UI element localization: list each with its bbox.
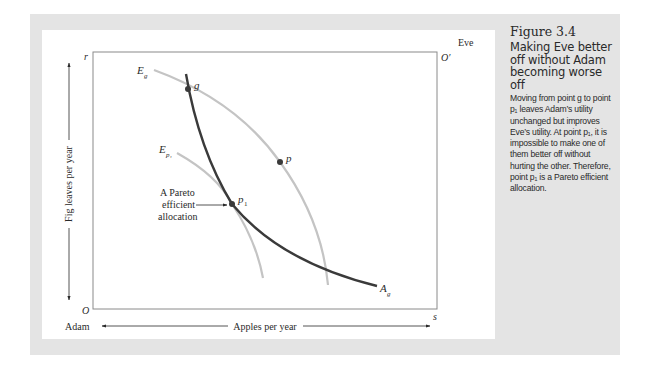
- figure-number: Figure 3.4: [510, 25, 615, 39]
- corner-label-origin-adam: O: [82, 305, 89, 316]
- svg-text:efficient: efficient: [162, 199, 195, 210]
- svg-text:1: 1: [244, 200, 248, 208]
- edgeworth-box: [93, 52, 437, 309]
- y-axis-label: Fig leaves per year: [63, 145, 74, 221]
- svg-text:E: E: [136, 64, 144, 76]
- svg-text:A: A: [379, 282, 387, 294]
- point-g: [185, 86, 191, 92]
- point-p: [277, 159, 283, 165]
- curve-label-eg: E g: [136, 64, 148, 80]
- agent-label-eve: Eve: [458, 37, 474, 48]
- svg-text:g: g: [144, 72, 148, 80]
- point-label-g: g: [194, 79, 200, 91]
- figure-title: Making Eve better off without Adam becom…: [510, 41, 615, 91]
- curve-label-ep1: E p₁: [158, 143, 172, 159]
- svg-text:g: g: [387, 290, 391, 298]
- agent-label-adam: Adam: [65, 321, 90, 332]
- x-axis-label: Apples per year: [233, 321, 297, 332]
- svg-text:E: E: [158, 143, 166, 155]
- point-label-p: p: [285, 152, 292, 164]
- eve-indifference-curve-eg: [154, 70, 328, 285]
- corner-label-r: r: [84, 51, 88, 62]
- svg-text:A Pareto: A Pareto: [160, 187, 195, 198]
- curve-label-ag: A g: [379, 282, 391, 298]
- svg-text:allocation: allocation: [158, 211, 197, 222]
- point-p1: [229, 201, 235, 207]
- svg-text:p₁: p₁: [165, 151, 172, 159]
- figure-caption: Figure 3.4 Making Eve better off without…: [510, 25, 615, 195]
- figure-caption-text: Moving from point g to point p₁ leaves A…: [510, 93, 615, 195]
- svg-text:p: p: [237, 193, 244, 205]
- point-label-p1: p 1: [237, 193, 248, 208]
- corner-label-s: s: [433, 311, 437, 322]
- pareto-annotation: A Pareto efficient allocation: [158, 187, 197, 222]
- corner-label-origin-eve: O′: [441, 52, 451, 63]
